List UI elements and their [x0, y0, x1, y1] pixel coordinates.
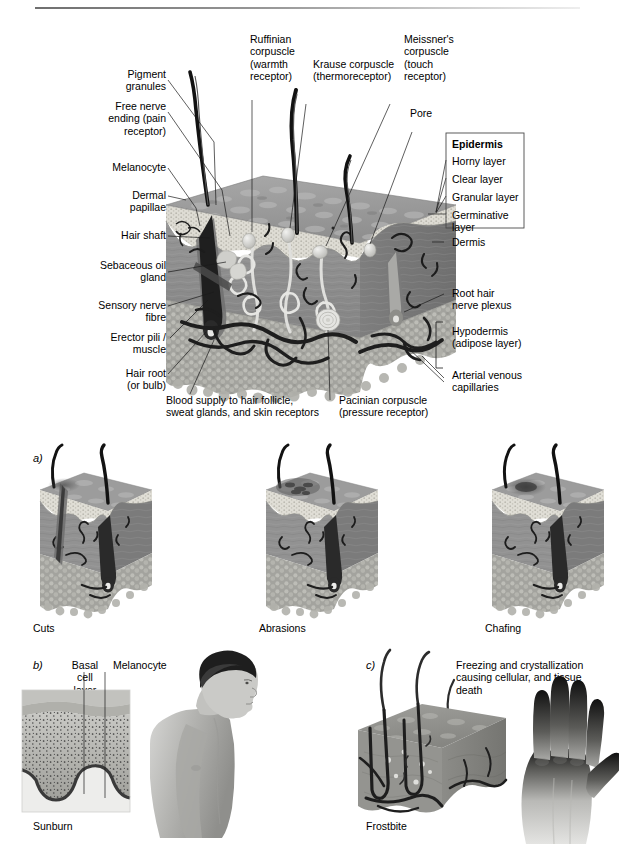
- epidermis-layer-clear: Clear layer: [452, 173, 526, 185]
- panel-b-human-figure: [150, 650, 258, 838]
- panel-c-caption-frostbite: Frostbite: [366, 820, 466, 832]
- label-melanocyte: Melanocyte: [58, 161, 166, 173]
- label-meissners-corpuscle: Meissner's corpuscle (touch receptor): [404, 33, 482, 83]
- panel-b-sunburn-illustration: [0, 648, 310, 848]
- panel-c-skin-slab: [358, 650, 506, 813]
- label-hair-shaft: Hair shaft: [58, 229, 166, 241]
- panel-a-block-abrasions: [266, 445, 378, 618]
- panel-a-caption-chafing: Chafing: [485, 622, 575, 634]
- panel-a-caption-cuts: Cuts: [33, 622, 123, 634]
- panel-a-caption-abrasions: Abrasions: [259, 622, 349, 634]
- label-ruffinian-corpuscle: Ruffinian corpuscle (warmth receptor): [250, 33, 322, 83]
- ruffinian-corpuscle-shape: [243, 234, 256, 249]
- pacinian-corpuscle-shape: [316, 309, 340, 331]
- label-root-hair-nerve-plexus: Root hair nerve plexus: [452, 287, 540, 312]
- krause-corpuscle-shape: [282, 228, 295, 243]
- epidermis-layer-granular: Granular layer: [452, 191, 528, 203]
- label-blood-supply: Blood supply to hair follicle, sweat gla…: [166, 394, 366, 419]
- label-dermis: Dermis: [452, 236, 532, 248]
- panel-b-cross-section: [22, 690, 130, 812]
- label-pigment-granules: Pigment granules: [58, 68, 166, 93]
- panel-a-block-chafing: [492, 445, 604, 618]
- panel-c-hand-figure: [522, 676, 619, 844]
- panel-a-illustrations: [0, 445, 619, 645]
- panel-a-block-cuts: [40, 445, 152, 618]
- label-sensory-nerve-fibre: Sensory nerve fibre: [48, 299, 166, 324]
- panel-b-caption-sunburn: Sunburn: [33, 820, 133, 832]
- label-pore: Pore: [410, 107, 470, 119]
- label-erector-pili-muscle: Erector pili / muscle: [52, 331, 166, 356]
- label-pacinian-corpuscle: Pacinian corpuscle (pressure receptor): [339, 394, 469, 419]
- label-free-nerve-ending: Free nerve ending (pain receptor): [48, 100, 166, 137]
- epidermis-layer-germinative: Germinative layer: [452, 209, 526, 234]
- epidermis-box-heading: Epidermis: [452, 138, 524, 150]
- epidermis-layer-horny: Horny layer: [452, 155, 526, 167]
- label-sebaceous-oil-gland: Sebaceous oil gland: [48, 259, 166, 284]
- label-hair-root: Hair root (or bulb): [52, 367, 166, 392]
- label-dermal-papillae: Dermal papillae: [58, 189, 166, 214]
- meissners-corpuscle-shape: [313, 246, 328, 259]
- panel-c-frostbite-illustration: [330, 648, 619, 848]
- label-krause-corpuscle: Krause corpuscle (thermoreceptor): [313, 58, 415, 83]
- label-hypodermis: Hypodermis (adipose layer): [452, 325, 544, 350]
- label-arterial-venous-capillaries: Arterial venous capillaries: [452, 369, 544, 394]
